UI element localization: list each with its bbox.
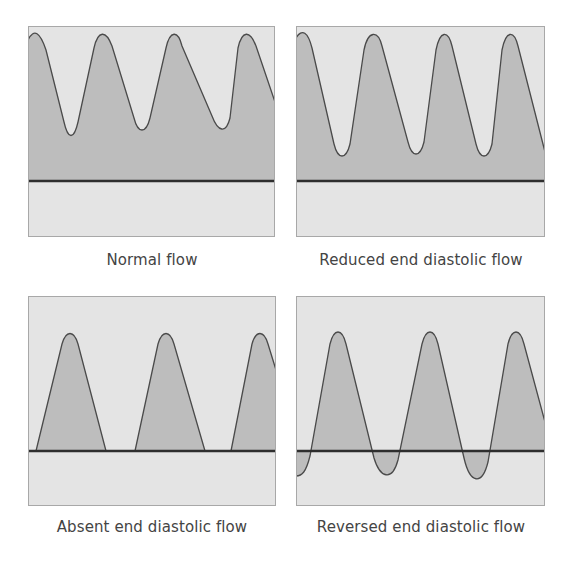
- waveform-panel-absent-flow: [28, 296, 276, 506]
- caption-absent-flow: Absent end diastolic flow: [22, 518, 282, 536]
- caption-normal-flow: Normal flow: [22, 251, 282, 269]
- waveform-panel-reduced-flow: [296, 26, 545, 237]
- caption-reduced-flow: Reduced end diastolic flow: [291, 251, 551, 269]
- waveform-panel-reversed-flow: [296, 296, 545, 506]
- waveform-panel-normal-flow: [28, 26, 275, 237]
- caption-reversed-flow: Reversed end diastolic flow: [291, 518, 551, 536]
